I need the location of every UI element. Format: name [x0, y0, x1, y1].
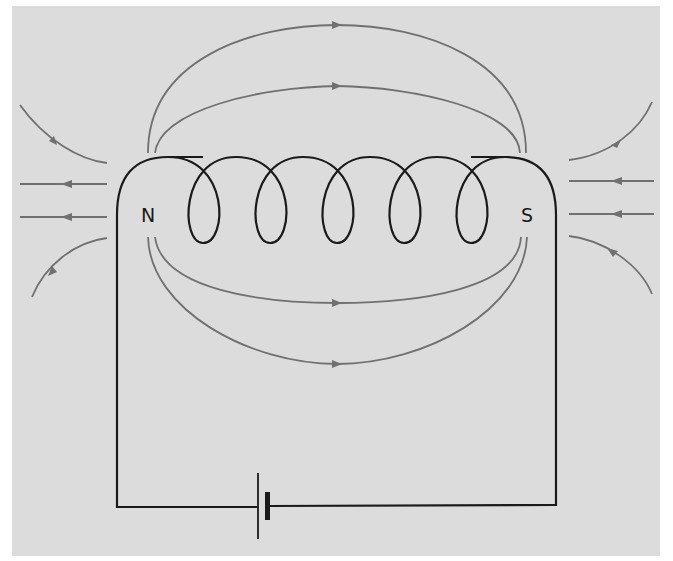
diagram-background [12, 6, 660, 556]
solenoid-diagram: N S [0, 0, 673, 561]
south-pole-label: S [521, 204, 533, 226]
battery-short-plate [265, 492, 270, 520]
north-pole-label: N [141, 204, 155, 226]
